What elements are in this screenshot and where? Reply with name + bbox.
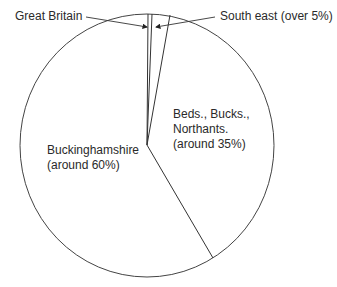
label-bucks-line1: Buckinghamshire xyxy=(47,143,139,158)
label-beds-line2: Northants. xyxy=(173,122,250,137)
label-beds-bucks-northants: Beds., Bucks., Northants. (around 35%) xyxy=(173,107,250,152)
label-bucks-line2: (around 60%) xyxy=(47,158,139,173)
label-south-east: South east (over 5%) xyxy=(220,9,333,24)
label-beds-line1: Beds., Bucks., xyxy=(173,107,250,122)
label-beds-line3: (around 35%) xyxy=(173,137,250,152)
label-great-britain: Great Britain xyxy=(15,9,82,24)
label-buckinghamshire: Buckinghamshire (around 60%) xyxy=(47,143,139,173)
